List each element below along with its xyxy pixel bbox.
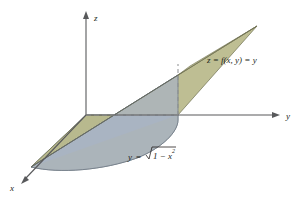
calculus-3d-figure: z y x z = f(x, y) = y y = 1 − x 2 bbox=[0, 0, 302, 197]
curve-equation-equals: = bbox=[136, 152, 141, 162]
x-axis-label: x bbox=[9, 183, 14, 193]
curve-radicand-exponent: 2 bbox=[172, 148, 175, 154]
surface-equation-label: z = f(x, y) = y bbox=[206, 55, 257, 65]
surface-equation-text: z = f(x, y) = y bbox=[206, 55, 257, 65]
y-axis-label: y bbox=[285, 111, 290, 121]
curve-equation-lhs: y bbox=[127, 152, 132, 162]
z-axis-label: z bbox=[93, 13, 98, 23]
curve-radicand-base: 1 − x bbox=[153, 151, 172, 161]
